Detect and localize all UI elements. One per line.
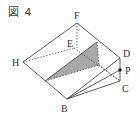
label-f: F — [74, 10, 80, 21]
point-p-marker — [118, 68, 122, 72]
label-b: B — [61, 103, 68, 114]
label-c: C — [122, 83, 129, 94]
prism-diagram: F E H B D C P — [0, 0, 140, 118]
label-d: D — [123, 48, 130, 59]
label-e: E — [67, 38, 73, 49]
label-h: H — [12, 57, 19, 68]
label-p: P — [125, 65, 131, 76]
visible-edges — [23, 23, 120, 99]
